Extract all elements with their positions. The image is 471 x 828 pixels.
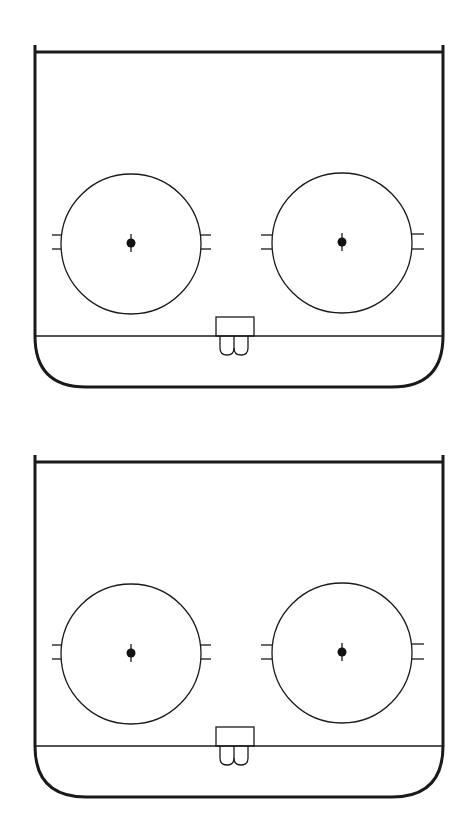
rink-bottom	[35, 455, 443, 797]
rink-diagrams	[0, 0, 471, 828]
rink-bottom-lines	[35, 455, 443, 797]
rink-top-lines	[35, 45, 443, 387]
rink-top	[35, 45, 443, 387]
